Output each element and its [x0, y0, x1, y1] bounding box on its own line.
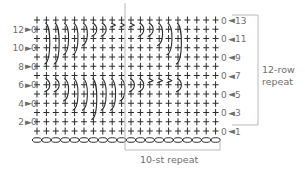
stitch-grid — [34, 17, 219, 135]
single-crochet-stitch — [194, 17, 200, 24]
single-crochet-stitch — [81, 72, 87, 79]
single-crochet-stitch — [53, 109, 59, 116]
single-crochet-stitch — [62, 63, 68, 70]
svg-text:0: 0 — [31, 117, 37, 127]
single-crochet-stitch — [194, 72, 200, 79]
svg-text:5: 5 — [235, 90, 241, 100]
single-crochet-stitch — [137, 128, 143, 135]
single-crochet-stitch — [203, 91, 209, 98]
single-crochet-stitch — [147, 54, 153, 61]
single-crochet-stitch — [90, 91, 96, 98]
single-crochet-stitch — [137, 17, 143, 24]
single-crochet-stitch — [213, 109, 219, 116]
single-crochet-stitch — [81, 17, 87, 24]
chain-stitch — [202, 138, 211, 143]
single-crochet-stitch — [100, 91, 106, 98]
single-crochet-stitch — [166, 63, 172, 70]
svg-text:0: 0 — [221, 90, 227, 100]
single-crochet-stitch — [213, 118, 219, 125]
left-row-label: 8►0 — [18, 61, 37, 72]
single-crochet-stitch — [194, 91, 200, 98]
single-crochet-stitch — [203, 100, 209, 107]
single-crochet-stitch — [119, 54, 125, 61]
single-crochet-stitch — [81, 118, 87, 125]
single-crochet-stitch — [203, 17, 209, 24]
single-crochet-stitch — [128, 54, 134, 61]
single-crochet-stitch — [72, 128, 78, 135]
svg-text:0: 0 — [221, 16, 227, 26]
single-crochet-stitch — [203, 26, 209, 33]
single-crochet-stitch — [43, 17, 49, 24]
svg-text:0: 0 — [31, 80, 37, 90]
single-crochet-stitch — [128, 100, 134, 107]
single-crochet-stitch — [147, 44, 153, 51]
single-crochet-stitch — [213, 35, 219, 42]
single-crochet-stitch — [100, 26, 106, 33]
svg-text:◄: ◄ — [228, 126, 235, 136]
single-crochet-stitch — [72, 17, 78, 24]
single-crochet-stitch — [100, 128, 106, 135]
stitch-repeat-label: 10-st repeat — [140, 154, 198, 165]
single-crochet-stitch — [175, 72, 181, 79]
single-crochet-stitch — [166, 91, 172, 98]
svg-text:10: 10 — [13, 43, 25, 53]
single-crochet-stitch — [100, 63, 106, 70]
chain-stitch — [61, 138, 70, 143]
single-crochet-stitch — [43, 128, 49, 135]
single-crochet-stitch — [203, 118, 209, 125]
left-row-label: 2►0 — [18, 117, 37, 128]
single-crochet-stitch — [109, 35, 115, 42]
right-row-label: 0◄9 — [221, 52, 241, 63]
svg-text:0: 0 — [31, 62, 37, 72]
single-crochet-stitch — [72, 118, 78, 125]
single-crochet-stitch — [100, 17, 106, 24]
single-crochet-stitch — [53, 17, 59, 24]
single-crochet-stitch — [62, 109, 68, 116]
single-crochet-stitch — [147, 63, 153, 70]
svg-text:0: 0 — [221, 108, 227, 118]
chain-stitch — [211, 138, 220, 143]
single-crochet-stitch — [53, 100, 59, 107]
single-crochet-stitch — [213, 100, 219, 107]
chain-stitch — [173, 138, 182, 143]
single-crochet-stitch — [213, 17, 219, 24]
single-crochet-stitch — [213, 26, 219, 33]
chain-stitch — [51, 138, 60, 143]
single-crochet-stitch — [43, 81, 49, 88]
single-crochet-stitch — [147, 26, 153, 33]
single-crochet-stitch — [100, 72, 106, 79]
single-crochet-stitch — [90, 17, 96, 24]
chain-stitch — [98, 138, 107, 143]
long-stitch-arc — [157, 79, 162, 83]
single-crochet-stitch — [184, 35, 190, 42]
single-crochet-stitch — [43, 109, 49, 116]
single-crochet-stitch — [175, 44, 181, 51]
single-crochet-stitch — [147, 118, 153, 125]
single-crochet-stitch — [147, 17, 153, 24]
single-crochet-stitch — [119, 109, 125, 116]
single-crochet-stitch — [203, 63, 209, 70]
single-crochet-stitch — [137, 81, 143, 88]
single-crochet-stitch — [43, 100, 49, 107]
single-crochet-stitch — [194, 26, 200, 33]
long-stitch-arc — [120, 23, 125, 27]
single-crochet-stitch — [175, 35, 181, 42]
svg-text:13: 13 — [235, 16, 246, 26]
single-crochet-stitch — [109, 118, 115, 125]
single-crochet-stitch — [213, 63, 219, 70]
single-crochet-stitch — [194, 63, 200, 70]
single-crochet-stitch — [194, 35, 200, 42]
svg-text:7: 7 — [235, 71, 241, 81]
single-crochet-stitch — [72, 72, 78, 79]
chain-stitch — [126, 138, 135, 143]
single-crochet-stitch — [203, 109, 209, 116]
svg-text:◄: ◄ — [228, 34, 235, 44]
single-crochet-stitch — [184, 44, 190, 51]
single-crochet-stitch — [109, 63, 115, 70]
single-crochet-stitch — [156, 118, 162, 125]
svg-text:0: 0 — [221, 71, 227, 81]
single-crochet-stitch — [184, 109, 190, 116]
single-crochet-stitch — [62, 118, 68, 125]
single-crochet-stitch — [184, 63, 190, 70]
single-crochet-stitch — [34, 17, 40, 24]
